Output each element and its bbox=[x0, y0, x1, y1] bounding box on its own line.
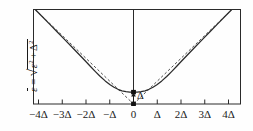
minimum-point-marker bbox=[131, 90, 136, 94]
origin-point-marker bbox=[131, 102, 136, 106]
plot-canvas bbox=[0, 0, 253, 131]
axes-border bbox=[34, 10, 241, 105]
axes-frame bbox=[34, 10, 241, 105]
figure-panel: ε = √ ε2+Δ2 −4Δ −3Δ −2Δ −Δ 0 Δ 2Δ 3Δ 4Δ … bbox=[0, 0, 253, 131]
